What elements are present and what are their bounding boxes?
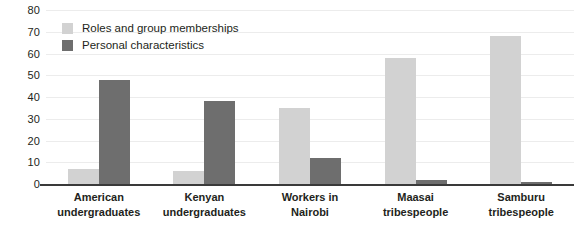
bar-group xyxy=(363,10,469,184)
category-label-line: Nairobi xyxy=(257,205,363,220)
bar-pair xyxy=(257,10,363,184)
category-label: Workers inNairobi xyxy=(257,190,363,232)
x-axis-line xyxy=(40,184,574,186)
y-tick-label: 30 xyxy=(28,113,40,124)
legend-item[interactable]: Personal characteristics xyxy=(62,39,239,52)
bar-roles-group-memberships[interactable] xyxy=(490,36,521,184)
bar-group xyxy=(257,10,363,184)
legend-label: Personal characteristics xyxy=(82,39,204,52)
y-tick-label: 10 xyxy=(28,157,40,168)
category-label-line: tribespeople xyxy=(468,205,574,220)
bar-roles-group-memberships[interactable] xyxy=(279,108,310,184)
bar-personal-characteristics[interactable] xyxy=(310,158,341,184)
y-axis: 80706050403020100 xyxy=(0,0,46,234)
y-tick-label: 80 xyxy=(28,5,40,16)
category-label-line: Workers in xyxy=(257,190,363,205)
bar-personal-characteristics[interactable] xyxy=(99,80,130,184)
category-label-line: tribespeople xyxy=(363,205,469,220)
bar-personal-characteristics[interactable] xyxy=(204,101,235,184)
x-axis-category-labels: AmericanundergraduatesKenyanundergraduat… xyxy=(46,190,574,232)
category-label-line: Samburu xyxy=(468,190,574,205)
y-tick-label: 40 xyxy=(28,92,40,103)
category-label: Americanundergraduates xyxy=(46,190,152,232)
category-label-line: American xyxy=(46,190,152,205)
legend-item[interactable]: Roles and group memberships xyxy=(62,22,239,35)
category-label-line: Kenyan xyxy=(152,190,258,205)
bar-roles-group-memberships[interactable] xyxy=(68,169,99,184)
category-label-line: undergraduates xyxy=(46,205,152,220)
y-tick-label: 70 xyxy=(28,26,40,37)
bar-chart: 80706050403020100 Americanundergraduates… xyxy=(0,0,578,234)
legend-swatch-light xyxy=(62,23,73,34)
bar-group xyxy=(468,10,574,184)
category-label: Kenyanundergraduates xyxy=(152,190,258,232)
y-tick-label: 60 xyxy=(28,48,40,59)
category-label: Samburutribespeople xyxy=(468,190,574,232)
bar-pair xyxy=(468,10,574,184)
y-tick-label: 50 xyxy=(28,70,40,81)
legend-swatch-dark xyxy=(62,40,73,51)
category-label-line: Maasai xyxy=(363,190,469,205)
bar-roles-group-memberships[interactable] xyxy=(385,58,416,184)
category-label-line: undergraduates xyxy=(152,205,258,220)
chart-legend: Roles and group membershipsPersonal char… xyxy=(62,22,239,52)
legend-label: Roles and group memberships xyxy=(82,22,239,35)
y-tick-label: 20 xyxy=(28,135,40,146)
bar-roles-group-memberships[interactable] xyxy=(173,171,204,184)
category-label: Maasaitribespeople xyxy=(363,190,469,232)
bar-pair xyxy=(363,10,469,184)
